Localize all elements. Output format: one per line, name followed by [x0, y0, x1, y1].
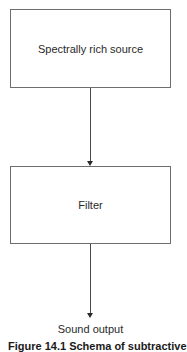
filter-node-label: Filter [78, 198, 102, 212]
edge-filter-to-output [90, 244, 91, 314]
filter-node: Filter [10, 166, 171, 244]
output-label: Sound output [0, 323, 181, 335]
edge-source-to-filter [90, 88, 91, 162]
arrowhead-icon [87, 313, 93, 318]
source-node-label: Spectrally rich source [38, 42, 143, 56]
source-node: Spectrally rich source [10, 9, 171, 88]
figure-caption: Figure 14.1 Schema of subtractive [8, 340, 187, 352]
